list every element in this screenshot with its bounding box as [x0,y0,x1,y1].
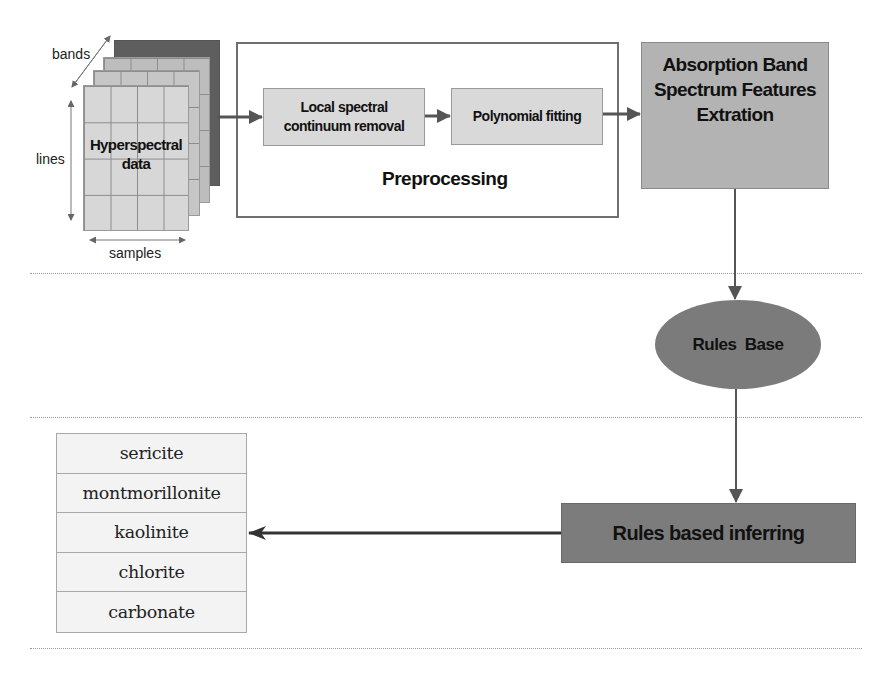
connector-arrows [0,0,893,679]
bands-axis-arrow [72,36,110,87]
